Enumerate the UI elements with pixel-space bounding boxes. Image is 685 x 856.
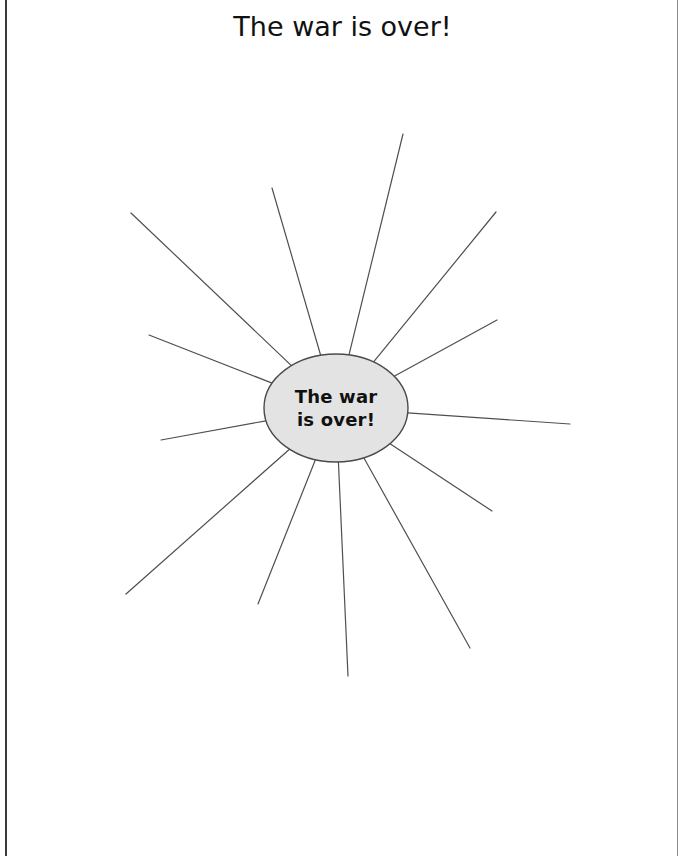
ray-1[interactable] xyxy=(272,188,321,355)
ray-3[interactable] xyxy=(374,212,496,362)
ray-4[interactable] xyxy=(394,320,497,376)
ray-9[interactable] xyxy=(258,460,315,604)
ray-8[interactable] xyxy=(338,462,348,676)
ray-13[interactable] xyxy=(131,213,291,366)
ray-10[interactable] xyxy=(126,449,289,594)
ray-2[interactable] xyxy=(349,134,403,355)
ray-11[interactable] xyxy=(161,421,266,440)
ray-12[interactable] xyxy=(149,335,272,383)
ray-5[interactable] xyxy=(408,413,570,424)
worksheet-page: The war is over! The war is over! xyxy=(0,0,685,856)
sunburst-diagram xyxy=(0,0,685,856)
ray-6[interactable] xyxy=(390,444,492,511)
center-topic-ellipse[interactable] xyxy=(264,354,408,462)
